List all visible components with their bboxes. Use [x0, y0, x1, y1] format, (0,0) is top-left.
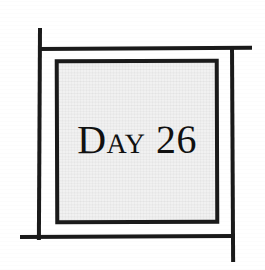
illustration-canvas: Day 26: [0, 0, 265, 270]
day-panel: Day 26: [55, 59, 220, 225]
frame-rule-left: [37, 28, 42, 240]
frame-rule-bottom: [20, 234, 233, 239]
frame-rule-right: [230, 47, 235, 262]
day-label: Day 26: [77, 119, 197, 159]
frame-rule-top: [38, 46, 252, 51]
